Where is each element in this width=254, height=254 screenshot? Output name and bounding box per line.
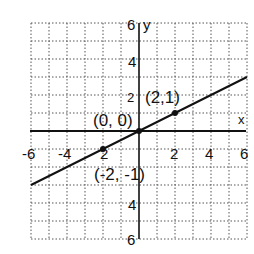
- point-2-1: [172, 110, 178, 116]
- x-tick-label: -4: [58, 145, 71, 162]
- y-tick-label: 6: [127, 16, 135, 33]
- x-tick-label: 2: [170, 145, 178, 162]
- x-tick-label: 6: [240, 145, 248, 162]
- y-tick-label: 6: [127, 231, 135, 248]
- y-tick-label: 4: [128, 196, 136, 213]
- x-tick-label: 4: [205, 145, 213, 162]
- x-tick-label: 2: [100, 145, 108, 162]
- point-label-origin: (0, 0): [93, 111, 133, 130]
- y-axis-label: y: [143, 16, 151, 33]
- point-label-2-1: (2,1): [145, 88, 180, 107]
- point-origin: [136, 128, 142, 134]
- x-axis-label: x: [238, 112, 245, 127]
- y-tick-label: 4: [128, 53, 136, 70]
- y-tick-label: 2: [127, 90, 134, 105]
- x-tick-label: -6: [22, 145, 35, 162]
- point-label-neg2-neg1: (-2, -1): [94, 165, 145, 184]
- coordinate-plane: y x -6 -4 2 2 4 6 6 4 2 4 6 (0, 0) (2,1)…: [0, 0, 254, 254]
